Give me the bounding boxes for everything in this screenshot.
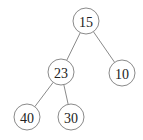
node-label: 30 — [64, 111, 78, 126]
tree-node-15: 15 — [73, 8, 99, 34]
binary-tree-diagram: 1523104030 — [0, 0, 143, 140]
node-label: 15 — [79, 15, 93, 30]
tree-node-10: 10 — [109, 60, 135, 86]
tree-node-40: 40 — [14, 104, 40, 130]
tree-node-30: 30 — [58, 104, 84, 130]
node-label: 40 — [20, 111, 34, 126]
edge-23-40 — [35, 82, 53, 106]
tree-edges — [35, 32, 115, 107]
edge-23-30 — [64, 85, 68, 105]
edge-15-23 — [67, 33, 81, 61]
node-label: 23 — [54, 66, 68, 81]
tree-nodes: 1523104030 — [14, 8, 135, 130]
node-label: 10 — [115, 67, 129, 82]
edge-15-10 — [93, 32, 114, 63]
tree-node-23: 23 — [48, 59, 74, 85]
